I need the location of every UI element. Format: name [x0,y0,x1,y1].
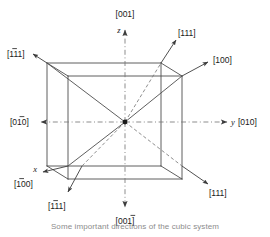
axis-lines [41,30,227,207]
diagonal-lower-right [125,122,182,166]
minus-x-axis-line [125,76,182,122]
label-axis-z: z [116,25,121,35]
diagonal-lower-right-arrow [182,166,208,184]
label-lower-left-100: [100] [14,179,33,189]
label-axis-y: y [230,117,235,127]
label-upper-right-100: [100] [213,55,232,65]
cube-connecting-edges [47,63,182,179]
label-upper-right-111: [111] [178,28,196,38]
label-upper-left-111: [111] [7,49,25,59]
cube-wireframe [47,63,182,179]
diagonal-upper-left-arrow [33,54,47,63]
x-axis-line [68,122,125,166]
diagonal-upper-right [125,63,161,122]
crystal-direction-figure: [001] z [001] [010] y [010] [100] x [100… [0,0,270,237]
diagonal-upper-right-arrow [161,40,176,63]
diagonal-upper-left [47,63,125,122]
diagonal-lower-left [82,122,125,166]
diagram-canvas: [001] z [001] [010] y [010] [100] x [100… [0,0,270,237]
origin-point [123,120,128,125]
label-lower-left-111: [111] [48,201,66,211]
figure-caption: Some important directions of the cubic s… [0,222,270,231]
label-axis-x: x [32,164,37,174]
label-left-010: [010] [10,117,29,127]
label-right-010: [010] [238,117,257,127]
minus-x-axis-arrow [182,62,208,76]
label-top-001: [001] [116,9,135,19]
cube-back-face [47,63,161,166]
label-lower-right-111: [111] [209,188,227,198]
